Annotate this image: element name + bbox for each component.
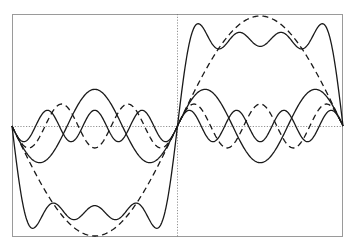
fourier-chart <box>0 0 351 245</box>
